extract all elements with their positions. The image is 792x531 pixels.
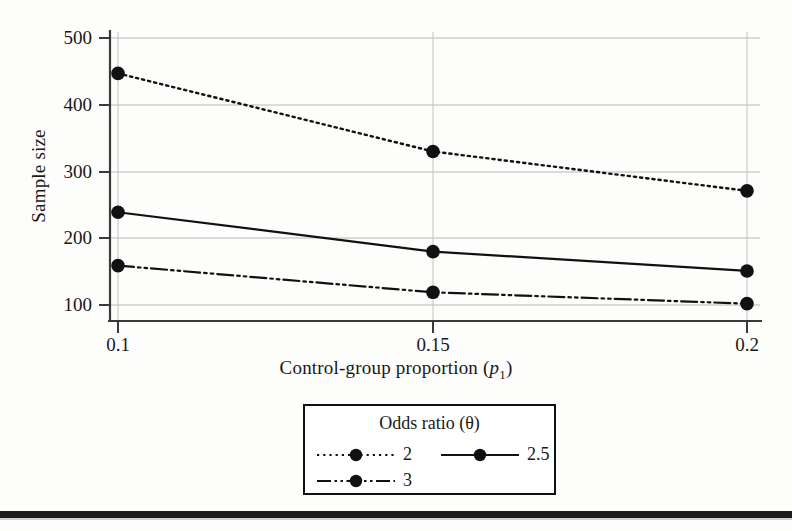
data-point-marker: [111, 259, 125, 273]
x-tick-label-2: 0.2: [707, 334, 787, 356]
axis-spines: [108, 30, 762, 322]
chart-legend: Odds ratio (θ) 2 2.5 3: [303, 404, 556, 495]
x-axis-title-post: ): [506, 357, 513, 378]
y-tick-label-100: 100: [36, 294, 92, 316]
figure-container: 500 400 300 200 100 0.1 0.15 0.2 Sample …: [0, 0, 792, 531]
legend-swatch-dash-dot-dot: [315, 468, 397, 494]
data-point-marker: [740, 297, 754, 311]
gridlines-vertical: [118, 32, 747, 320]
data-point-marker: [426, 145, 440, 159]
data-point-marker: [111, 67, 125, 81]
x-axis-title-var: p: [490, 357, 500, 378]
data-point-marker: [426, 286, 440, 300]
legend-entry-2[interactable]: 2: [315, 442, 435, 468]
legend-swatch-dotted: [315, 442, 397, 468]
y-axis-title: Sample size: [28, 56, 50, 296]
data-point-marker: [426, 245, 440, 259]
x-axis-ticks: [118, 321, 747, 333]
legend-entry-3[interactable]: 3: [315, 468, 435, 494]
x-tick-label-1: 0.15: [393, 334, 473, 356]
x-axis-title-sub: 1: [499, 367, 506, 382]
y-tick-label-500: 500: [36, 27, 92, 49]
legend-label-3: 3: [403, 470, 412, 491]
page-bottom-rule: [0, 511, 792, 518]
legend-title: Odds ratio (θ): [305, 413, 554, 434]
data-point-marker: [740, 264, 754, 278]
x-axis-title-pre: Control-group proportion (: [280, 357, 490, 378]
x-axis-title: Control-group proportion (p1): [0, 357, 792, 383]
x-tick-label-0: 0.1: [78, 334, 158, 356]
data-point-marker: [111, 205, 125, 219]
legend-label-2-5: 2.5: [527, 444, 550, 465]
legend-swatch-solid: [439, 442, 521, 468]
chart-plot-area: 500 400 300 200 100 0.1 0.15 0.2 Sample …: [0, 0, 792, 400]
page-bottom-rule-shadow: [0, 518, 792, 520]
data-point-marker: [740, 184, 754, 198]
legend-label-2: 2: [403, 444, 412, 465]
y-axis-ticks: [99, 38, 110, 305]
legend-entry-2-5[interactable]: 2.5: [439, 442, 559, 468]
